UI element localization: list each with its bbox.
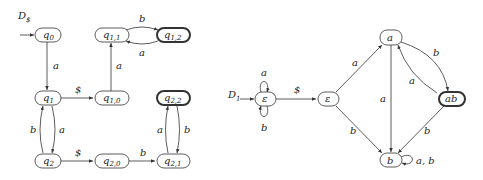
edge-label: a (261, 67, 267, 78)
state-a: a (380, 30, 402, 45)
state-q1-0: q1,0 (95, 91, 129, 105)
state-q1-1: q1,1 (95, 28, 129, 42)
state-q2-1: q2,1 (157, 154, 190, 168)
edge-q21-q22 (166, 106, 169, 153)
right-title: D1 (227, 89, 241, 103)
edge-label: b (433, 47, 439, 58)
edge-eps1-loop-b (260, 106, 267, 117)
state-q2-2-accepting: q2,2 (157, 91, 190, 105)
edge-q1-q2 (52, 106, 55, 153)
edge-q22-q21 (177, 106, 180, 153)
edge-label: a (53, 60, 59, 71)
right-automaton: D1 a b $ a b a b a b a, b (227, 30, 465, 167)
svg-text:ε: ε (325, 93, 330, 104)
edge-label: a (139, 47, 145, 58)
edge-label: $ (75, 147, 81, 158)
edge-label: b (140, 147, 146, 158)
state-q0: q0 (35, 28, 61, 42)
edge-label: a (59, 124, 65, 135)
edge-eps1-loop-a (260, 82, 267, 93)
svg-text:a: a (387, 32, 393, 43)
edge-ab-b (398, 106, 444, 153)
edge-label: a (380, 93, 386, 104)
svg-text:b: b (387, 155, 393, 166)
edge-label: a (116, 60, 122, 71)
state-ab-accepting: ab (439, 92, 465, 106)
edge-eps2-a (336, 45, 382, 92)
svg-text:ε: ε (262, 93, 267, 104)
edge-label: b (139, 13, 145, 24)
state-b: b (380, 153, 402, 167)
edge-ab-a (398, 45, 437, 93)
edge-eps2-b (336, 106, 382, 153)
edge-q2-q1 (40, 106, 43, 153)
left-automaton: D$ a $ a b a a b $ b a b q0 (17, 10, 190, 168)
diagram-canvas: D$ a $ a b a a b $ b a b q0 (0, 0, 483, 180)
edge-label: b (30, 124, 36, 135)
edge-label: b (350, 125, 356, 136)
edge-label: a, b (416, 155, 435, 166)
edge-label: b (184, 124, 190, 135)
svg-text:ab: ab (445, 93, 457, 104)
edge-label: $ (75, 84, 81, 95)
state-q2-0: q2,0 (95, 154, 129, 168)
edge-label: a (409, 75, 415, 86)
state-eps1: ε (255, 92, 276, 106)
edge-label: a (157, 124, 163, 135)
left-title: D$ (17, 10, 31, 24)
state-eps2: ε (318, 92, 339, 106)
edge-label: a (352, 57, 358, 68)
edge-label: $ (294, 84, 300, 95)
edge-q11-q12 (126, 27, 158, 30)
edge-q12-q11 (126, 41, 158, 44)
edge-b-loop (401, 155, 412, 164)
state-q2: q2 (35, 154, 61, 168)
state-q1-2-accepting: q1,2 (157, 28, 190, 42)
edge-label: b (261, 122, 267, 133)
edge-label: b (424, 125, 430, 136)
state-q1: q1 (35, 91, 61, 105)
